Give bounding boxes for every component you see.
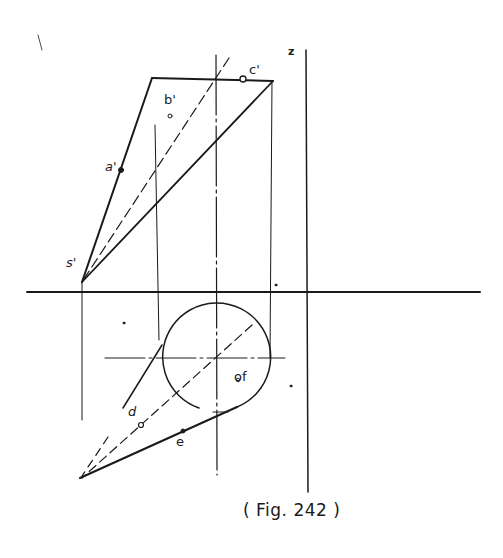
point-a-prime — [119, 168, 124, 173]
figure-caption: ( Fig. 242 ) — [243, 502, 340, 519]
plan-left-generator — [123, 345, 162, 408]
projector-b — [155, 125, 159, 340]
plan-axis — [82, 325, 252, 478]
profile-line — [306, 50, 308, 492]
stray-dot — [290, 385, 292, 387]
point-b-prime — [168, 114, 172, 118]
point-d — [139, 423, 144, 428]
point-e — [181, 429, 185, 433]
elev-top-edge — [152, 78, 273, 81]
label-c-prime: c' — [249, 63, 260, 76]
point-c-prime — [240, 76, 246, 82]
label-a-prime: a' — [105, 160, 117, 173]
label-b-prime: b' — [164, 93, 176, 106]
label-f: of — [234, 370, 247, 383]
label-d: d — [128, 405, 136, 418]
stray-mark — [38, 35, 42, 50]
projector-right — [270, 81, 272, 358]
label-e: e — [176, 435, 184, 448]
stray-dot — [123, 322, 125, 324]
stray-dot — [275, 284, 277, 286]
elev-right-generator — [82, 81, 273, 282]
plan-tangent-generator — [80, 407, 237, 478]
label-z: z — [288, 46, 294, 57]
projection-drawing — [0, 0, 503, 558]
elev-left-generator — [82, 78, 152, 282]
label-s-prime: s' — [66, 256, 76, 269]
